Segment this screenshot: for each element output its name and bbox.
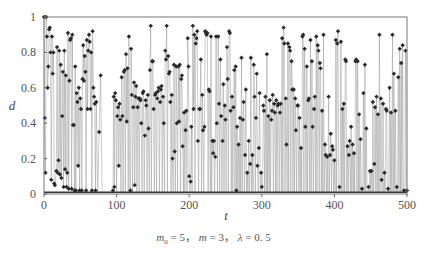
data-point-marker <box>119 75 123 79</box>
lambda-value: = 0. 5 <box>242 231 270 243</box>
data-point-marker <box>180 73 184 77</box>
data-point-marker <box>323 142 327 146</box>
data-point-marker <box>199 57 203 61</box>
data-point-marker <box>268 98 272 102</box>
data-point-marker <box>62 48 66 52</box>
y-tick-label: 1 <box>30 10 36 24</box>
data-point-marker <box>133 183 137 187</box>
x-tick-label: 300 <box>253 198 271 212</box>
y-axis-ticks: 00.20.40.60.81 <box>21 10 47 201</box>
data-point-marker <box>129 47 133 51</box>
data-point-marker <box>57 48 61 52</box>
data-point-marker <box>55 45 59 49</box>
y-tick-label: 0.6 <box>21 81 36 95</box>
data-point-marker <box>196 139 200 143</box>
data-point-marker <box>164 24 168 28</box>
data-point-marker <box>91 86 95 90</box>
data-point-marker <box>318 66 322 70</box>
data-point-marker <box>336 29 340 33</box>
data-point-marker <box>241 100 245 104</box>
data-point-marker <box>66 31 70 35</box>
data-point-marker <box>382 171 386 175</box>
data-point-marker <box>49 178 53 182</box>
data-point-marker <box>118 117 122 121</box>
data-point-marker <box>198 107 202 111</box>
data-point-marker <box>127 34 131 38</box>
data-point-marker <box>221 82 225 86</box>
data-point-marker <box>162 121 166 125</box>
data-point-marker <box>124 52 128 56</box>
data-point-marker <box>274 98 278 102</box>
data-point-marker <box>337 185 341 189</box>
data-point-marker <box>270 93 274 97</box>
data-point-marker <box>172 149 176 153</box>
data-point-marker <box>377 33 381 37</box>
data-point-marker <box>195 29 199 33</box>
data-point-marker <box>374 94 378 98</box>
y-tick-label: 0.4 <box>21 116 36 130</box>
data-point-marker <box>73 64 77 68</box>
x-axis-label: t <box>224 208 228 223</box>
y-tick-label: 0.8 <box>21 45 36 59</box>
data-point-marker <box>146 93 150 97</box>
data-point-marker <box>349 125 353 129</box>
x-tick-label: 0 <box>41 198 47 212</box>
data-point-marker <box>77 86 81 90</box>
data-point-marker <box>243 153 247 157</box>
data-point-marker <box>339 40 343 44</box>
data-point-marker <box>151 59 155 63</box>
data-point-marker <box>186 64 190 68</box>
figure-caption: m0 = 5， m = 3， λ = 0. 5 <box>0 228 427 246</box>
data-point-marker <box>342 102 346 106</box>
data-point-marker <box>255 71 259 75</box>
data-point-marker <box>255 163 259 167</box>
data-point-marker <box>261 103 265 107</box>
data-point-marker <box>371 100 375 104</box>
data-point-marker <box>360 186 364 190</box>
data-point-marker <box>134 84 138 88</box>
data-point-marker <box>245 171 249 175</box>
data-point-marker <box>252 63 256 67</box>
data-point-marker <box>316 48 320 52</box>
x-tick-label: 100 <box>108 198 126 212</box>
data-point-marker <box>244 87 248 91</box>
data-point-marker <box>308 38 312 42</box>
data-point-marker <box>149 24 153 28</box>
data-point-marker <box>194 36 198 40</box>
data-point-marker <box>305 64 309 68</box>
data-point-marker <box>281 25 285 29</box>
data-point-marker <box>225 45 229 49</box>
data-point-marker <box>98 73 102 77</box>
data-point-marker <box>249 56 253 60</box>
data-point-marker <box>87 33 91 37</box>
data-point-marker <box>117 163 121 167</box>
data-point-marker <box>223 117 227 121</box>
x-tick-label: 200 <box>180 198 198 212</box>
data-point-marker <box>381 102 385 106</box>
y-axis-label: d <box>9 98 16 113</box>
data-point-marker <box>148 68 152 72</box>
data-point-marker <box>209 34 213 38</box>
data-point-marker <box>265 52 269 56</box>
data-point-marker <box>395 185 399 189</box>
data-point-marker <box>239 56 243 60</box>
data-point-marker <box>288 48 292 52</box>
data-point-marker <box>43 116 47 120</box>
x-axis-ticks: 0100200300400500 <box>41 194 416 212</box>
data-point-marker <box>164 57 168 61</box>
y-tick-label: 0 <box>30 187 36 201</box>
data-point-marker <box>146 126 150 130</box>
data-point-marker <box>46 64 50 68</box>
data-point-marker <box>114 98 118 102</box>
data-point-marker <box>191 24 195 28</box>
data-point-marker <box>45 34 49 38</box>
data-point-marker <box>50 34 54 38</box>
data-point-marker <box>81 43 85 47</box>
data-point-marker <box>400 43 404 47</box>
m-symbol: m <box>199 231 207 243</box>
data-point-marker <box>398 47 402 51</box>
data-point-marker <box>90 29 94 33</box>
data-point-marker <box>218 57 222 61</box>
data-point-marker <box>143 98 147 102</box>
data-point-marker <box>326 94 330 98</box>
